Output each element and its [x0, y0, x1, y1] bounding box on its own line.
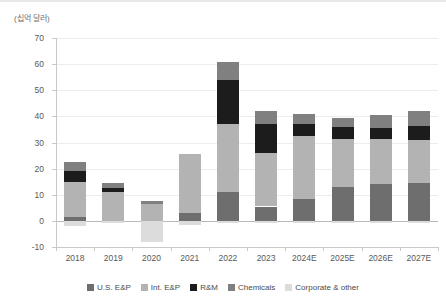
legend-item[interactable]: U.S. E&P	[87, 283, 131, 292]
bar-segment	[64, 162, 86, 171]
y-tick-label: -10	[4, 242, 44, 252]
x-tick-label: 2021	[180, 253, 199, 263]
bar-segment	[64, 171, 86, 181]
bar-segment	[370, 221, 392, 224]
y-tick-label: 40	[4, 111, 44, 121]
legend-swatch-icon	[228, 284, 235, 291]
bar-segment	[332, 187, 354, 221]
x-tick-mark	[94, 247, 95, 251]
bar-segment	[370, 184, 392, 221]
bar-segment	[332, 139, 354, 187]
bar-segment	[217, 192, 239, 221]
x-tick-label: 2018	[66, 253, 85, 263]
y-tick-label: 50	[4, 85, 44, 95]
x-tick-label: 2026E	[368, 253, 393, 263]
bar-segment	[370, 139, 392, 185]
bar-segment	[102, 192, 124, 221]
legend-label: Chemicals	[238, 283, 275, 292]
y-tick-label: 30	[4, 138, 44, 148]
bar-segment	[64, 182, 86, 217]
legend-swatch-icon	[285, 284, 292, 291]
x-tick-label: 2024E	[292, 253, 317, 263]
legend-item[interactable]: Int. E&P	[141, 283, 180, 292]
x-tick-mark	[132, 247, 133, 251]
y-tick-mark	[52, 38, 56, 39]
bar-segment	[332, 118, 354, 127]
y-tick-mark	[52, 64, 56, 65]
y-tick-label: 10	[4, 190, 44, 200]
legend-item[interactable]: R&M	[190, 283, 218, 292]
x-tick-mark	[247, 247, 248, 251]
bar-segment	[408, 126, 430, 140]
x-tick-label: 2019	[104, 253, 123, 263]
bar-segment	[102, 221, 124, 224]
y-axis-line	[56, 38, 57, 247]
bar-segment	[255, 221, 277, 224]
gridline	[56, 38, 438, 39]
y-tick-mark	[52, 221, 56, 222]
chart-legend: U.S. E&PInt. E&PR&MChemicalsCorporate & …	[0, 283, 446, 292]
bar-segment	[293, 221, 315, 224]
y-tick-label: 60	[4, 59, 44, 69]
bar-segment	[370, 115, 392, 128]
y-tick-mark	[52, 143, 56, 144]
x-tick-mark	[362, 247, 363, 251]
bar-segment	[217, 80, 239, 124]
bar-segment	[217, 124, 239, 192]
legend-label: R&M	[200, 283, 218, 292]
y-axis-unit-label: (십억 달러)	[14, 12, 50, 23]
y-tick-label: 0	[4, 216, 44, 226]
bar-segment	[102, 183, 124, 188]
bar-segment	[179, 154, 201, 213]
legend-label: Corporate & other	[295, 283, 359, 292]
x-tick-label: 2023	[257, 253, 276, 263]
y-tick-mark	[52, 195, 56, 196]
y-tick-mark	[52, 90, 56, 91]
legend-label: U.S. E&P	[97, 283, 131, 292]
x-tick-label: 2020	[142, 253, 161, 263]
legend-item[interactable]: Corporate & other	[285, 283, 359, 292]
chart-container: (십억 달러) 706050403020100-10 2018201920202…	[0, 0, 446, 304]
x-tick-mark	[171, 247, 172, 251]
plot-area	[56, 38, 438, 247]
x-tick-label: 2025E	[330, 253, 355, 263]
bar-segment	[370, 128, 392, 138]
x-tick-mark	[56, 247, 57, 251]
bar-segment	[255, 111, 277, 124]
gridline	[56, 90, 438, 91]
bar-segment	[141, 221, 163, 242]
top-divider	[0, 0, 446, 2]
bar-segment	[255, 124, 277, 153]
legend-label: Int. E&P	[151, 283, 180, 292]
bar-segment	[255, 207, 277, 221]
y-tick-label: 20	[4, 164, 44, 174]
x-tick-label: 2022	[218, 253, 237, 263]
bar-segment	[217, 221, 239, 224]
y-tick-mark	[52, 116, 56, 117]
bar-segment	[408, 111, 430, 125]
bar-segment	[408, 140, 430, 183]
y-tick-label: 70	[4, 33, 44, 43]
y-tick-mark	[52, 169, 56, 170]
legend-swatch-icon	[87, 284, 94, 291]
legend-item[interactable]: Chemicals	[228, 283, 275, 292]
bar-segment	[141, 201, 163, 204]
x-tick-label: 2027E	[407, 253, 432, 263]
bar-segment	[102, 188, 124, 192]
legend-swatch-icon	[190, 284, 197, 291]
x-tick-mark	[209, 247, 210, 251]
legend-swatch-icon	[141, 284, 148, 291]
bar-segment	[293, 124, 315, 136]
bar-segment	[293, 199, 315, 221]
bar-segment	[293, 136, 315, 199]
bar-segment	[293, 114, 315, 124]
x-tick-mark	[400, 247, 401, 251]
x-tick-mark	[438, 247, 439, 251]
bar-segment	[332, 221, 354, 224]
bar-segment	[141, 204, 163, 221]
bar-segment	[255, 153, 277, 207]
bar-segment	[332, 127, 354, 139]
x-tick-mark	[285, 247, 286, 251]
bar-segment	[408, 183, 430, 221]
bar-segment	[179, 221, 201, 225]
